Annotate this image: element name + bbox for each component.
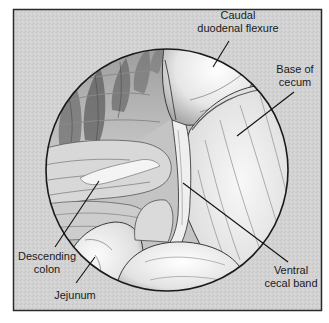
label-descending-colon: Descending colon <box>15 250 79 276</box>
label-ventral-line1: Ventral <box>262 264 320 277</box>
label-ventral-cecal-band: Ventral cecal band <box>262 264 320 290</box>
anatomical-figure: Caudal duodenal flexure Base of cecum De… <box>0 0 329 323</box>
label-ventral-line2: cecal band <box>262 277 320 290</box>
label-base-line1: Base of <box>270 63 320 76</box>
label-caudal-duodenal-flexure: Caudal duodenal flexure <box>190 9 286 35</box>
label-base-of-cecum: Base of cecum <box>270 63 320 89</box>
label-descending-line1: Descending <box>15 250 79 263</box>
label-caudal-line2: duodenal flexure <box>190 22 286 35</box>
label-base-line2: cecum <box>270 76 320 89</box>
label-jejunum: Jejunum <box>50 289 100 302</box>
label-jejunum-line1: Jejunum <box>50 289 100 302</box>
label-descending-line2: colon <box>15 263 79 276</box>
label-caudal-line1: Caudal <box>190 9 286 22</box>
